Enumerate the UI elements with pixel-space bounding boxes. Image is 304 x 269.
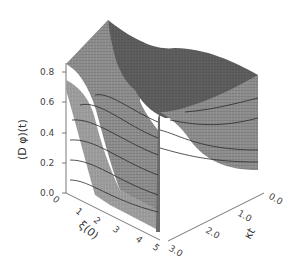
z-tick-label: 0.6 [40, 97, 55, 107]
z-axis-label: (D φ)(t) [16, 119, 29, 160]
y-axis: 3.0 2.0 1.0 0.0 κt [167, 191, 285, 259]
y-tick-label: 1.0 [236, 208, 254, 224]
z-tick-label: 0.8 [40, 67, 55, 77]
x-tick-label: 3 [111, 224, 122, 235]
y-tick-label: 3.0 [167, 243, 185, 259]
surface [66, 20, 258, 232]
x-tick-label: 4 [134, 234, 145, 246]
z-tick-label: 0.2 [40, 158, 54, 168]
x-tick-label: 2 [92, 215, 103, 226]
y-axis-label: κt [241, 225, 258, 241]
z-axis: 0.0 0.2 0.4 0.6 0.8 (D φ)(t) [16, 63, 66, 198]
z-tick-label: 0.0 [40, 188, 55, 198]
x-tick-label: 5 [151, 242, 162, 253]
y-tick-label: 2.0 [204, 225, 222, 241]
x-tick-label: 1 [74, 206, 85, 217]
y-tick-label: 0.0 [267, 191, 285, 207]
surface-plot: 0.0 0.2 0.4 0.6 0.8 (D φ)(t) [0, 0, 304, 269]
z-tick-label: 0.4 [40, 128, 55, 138]
